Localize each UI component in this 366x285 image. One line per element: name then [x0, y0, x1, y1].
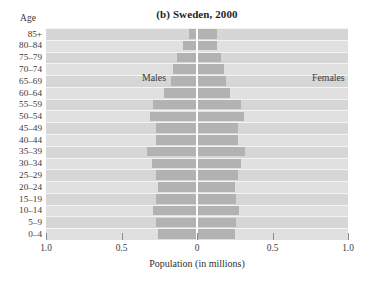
bar-male-25-29 — [156, 170, 197, 180]
series-label-males: Males — [142, 72, 166, 83]
age-tick-label: 35–39 — [0, 146, 42, 156]
bar-female-60-64 — [197, 88, 230, 98]
age-tick-label: 85+ — [0, 29, 42, 39]
age-tick-label: 60–64 — [0, 88, 42, 98]
bar-female-20-24 — [197, 182, 235, 192]
age-tick-label: 15–19 — [0, 194, 42, 204]
bar-male-35-39 — [147, 147, 197, 157]
age-tick-label: 80–84 — [0, 40, 42, 50]
chart-title: (b) Sweden, 2000 — [46, 8, 348, 20]
x-tick-label: 0.5 — [102, 243, 142, 253]
population-pyramid-figure: (b) Sweden, 2000 Age Males Females 85+80… — [0, 0, 366, 285]
bar-female-25-29 — [197, 170, 238, 180]
x-tick-label: 0 — [177, 243, 217, 253]
x-tick-mark — [122, 233, 123, 240]
bar-female-45-49 — [197, 123, 238, 133]
bar-male-50-54 — [150, 112, 197, 122]
age-tick-label: 70–74 — [0, 64, 42, 74]
x-tick-mark — [46, 233, 47, 240]
age-tick-label: 20–24 — [0, 182, 42, 192]
bar-male-10-14 — [153, 206, 197, 216]
plot-area: Males Females — [46, 28, 348, 240]
bar-female-85plus — [197, 29, 217, 39]
bar-female-5-9 — [197, 218, 236, 228]
bar-female-40-44 — [197, 135, 238, 145]
bar-female-0-4 — [197, 229, 235, 239]
x-tick-mark — [348, 233, 349, 240]
age-tick-label: 55–59 — [0, 99, 42, 109]
bar-female-35-39 — [197, 147, 245, 157]
bar-male-80-84 — [183, 41, 197, 51]
bar-male-55-59 — [153, 100, 197, 110]
age-tick-label: 45–49 — [0, 123, 42, 133]
age-tick-label: 5–9 — [0, 217, 42, 227]
age-tick-label: 10–14 — [0, 205, 42, 215]
age-tick-label: 0–4 — [0, 229, 42, 239]
age-tick-label: 65–69 — [0, 76, 42, 86]
x-tick-mark — [197, 233, 198, 240]
age-tick-label: 75–79 — [0, 52, 42, 62]
age-tick-label: 25–29 — [0, 170, 42, 180]
zero-axis-line — [196, 28, 197, 240]
bar-female-75-79 — [197, 53, 221, 63]
bar-male-5-9 — [156, 218, 197, 228]
bar-female-50-54 — [197, 112, 244, 122]
bar-male-75-79 — [177, 53, 197, 63]
age-axis-header: Age — [12, 13, 44, 23]
age-tick-label: 40–44 — [0, 135, 42, 145]
age-tick-label: 30–34 — [0, 158, 42, 168]
bar-male-30-34 — [152, 159, 197, 169]
bar-female-15-19 — [197, 194, 236, 204]
bar-male-45-49 — [156, 123, 197, 133]
bar-male-60-64 — [164, 88, 197, 98]
bar-male-70-74 — [173, 64, 197, 74]
bar-male-65-69 — [171, 76, 197, 86]
bar-male-40-44 — [156, 135, 197, 145]
x-tick-mark — [273, 233, 274, 240]
x-tick-label: 0.5 — [253, 243, 293, 253]
bar-female-55-59 — [197, 100, 241, 110]
bar-male-0-4 — [158, 229, 197, 239]
bar-female-10-14 — [197, 206, 239, 216]
bar-female-30-34 — [197, 159, 241, 169]
x-tick-label: 1.0 — [328, 243, 366, 253]
x-axis-title: Population (in millions) — [46, 258, 348, 269]
x-tick-label: 1.0 — [26, 243, 66, 253]
bar-male-20-24 — [158, 182, 197, 192]
bar-female-80-84 — [197, 41, 217, 51]
series-label-females: Females — [312, 72, 345, 83]
bar-male-15-19 — [156, 194, 197, 204]
age-tick-label: 50–54 — [0, 111, 42, 121]
bar-female-70-74 — [197, 64, 224, 74]
bar-female-65-69 — [197, 76, 226, 86]
